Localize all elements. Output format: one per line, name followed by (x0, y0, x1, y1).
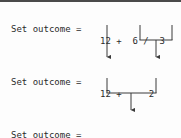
top-border-rule (0, 0, 181, 2)
equation-line-3: Set outcome = 14 (0, 117, 181, 129)
equation-expression-1: 12 + 6 / 3 (100, 35, 165, 47)
equation-label-2: Set outcome = (11, 76, 81, 88)
expression-evaluation-figure: Set outcome = 12 + 6 / 3 Set outcome = 1… (0, 0, 181, 138)
equation-line-1: Set outcome = 12 + 6 / 3 (0, 11, 181, 23)
equation-label-3: Set outcome = (11, 129, 81, 138)
equation-expression-2: 12 + 2 (100, 88, 154, 100)
equation-label-1: Set outcome = (11, 23, 81, 35)
equation-line-2: Set outcome = 12 + 2 (0, 64, 181, 76)
